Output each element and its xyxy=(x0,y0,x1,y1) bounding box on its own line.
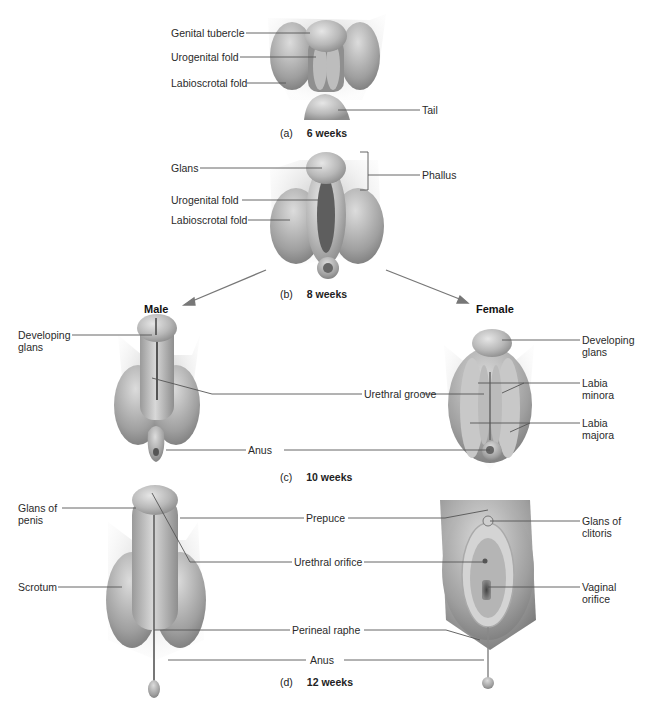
leader-lines xyxy=(0,0,650,709)
label-scrotum: Scrotum xyxy=(18,581,57,593)
label-labioscrotal-fold-8wk: Labioscrotal fold xyxy=(171,214,247,226)
label-urogenital-fold-8wk: Urogenital fold xyxy=(171,194,239,206)
label-glans-of-penis: Glans of penis xyxy=(18,502,57,526)
label-phallus: Phallus xyxy=(422,169,456,181)
heading-female: Female xyxy=(476,303,514,315)
label-vaginal-orifice: Vaginal orifice xyxy=(582,581,616,605)
label-tail: Tail xyxy=(422,104,438,116)
label-genital-tubercle: Genital tubercle xyxy=(171,27,245,39)
panel-tag-a: (a) xyxy=(280,127,293,139)
stage-6-weeks: 6 weeks xyxy=(307,127,347,139)
stage-8-weeks: 8 weeks xyxy=(307,288,347,300)
stage-12-weeks: 12 weeks xyxy=(307,676,353,688)
stage-10-weeks: 10 weeks xyxy=(306,471,352,483)
caption-12-weeks: (d)12 weeks xyxy=(280,676,353,688)
label-prepuce: Prepuce xyxy=(306,512,345,524)
label-glans-8wk: Glans xyxy=(171,162,198,174)
label-labia-minora: Labia minora xyxy=(582,377,614,401)
panel-tag-b: (b) xyxy=(280,288,293,300)
label-anus-12wk: Anus xyxy=(310,654,334,666)
label-labioscrotal-fold-6wk: Labioscrotal fold xyxy=(171,77,247,89)
label-anus-10wk: Anus xyxy=(248,444,272,456)
embryonic-genitalia-development-diagram: Genital tubercle Urogenital fold Labiosc… xyxy=(0,0,650,709)
caption-8-weeks: (b)8 weeks xyxy=(280,288,347,300)
caption-6-weeks: (a)6 weeks xyxy=(280,127,347,139)
label-urogenital-fold-6wk: Urogenital fold xyxy=(171,51,239,63)
caption-10-weeks: (c)10 weeks xyxy=(280,471,352,483)
label-developing-glans-male: Developing glans xyxy=(18,329,71,353)
label-urethral-orifice: Urethral orifice xyxy=(294,556,362,568)
label-perineal-raphe: Perineal raphe xyxy=(292,624,360,636)
heading-male: Male xyxy=(144,303,168,315)
label-labia-majora: Labia majora xyxy=(582,417,614,441)
panel-tag-d: (d) xyxy=(280,676,293,688)
panel-tag-c: (c) xyxy=(280,471,292,483)
label-developing-glans-female: Developing glans xyxy=(582,334,635,358)
label-urethral-groove: Urethral groove xyxy=(364,388,436,400)
label-glans-of-clitoris: Glans of clitoris xyxy=(582,515,621,539)
